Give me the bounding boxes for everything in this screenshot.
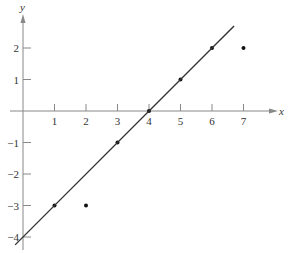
y-tick-label: −3 [7, 200, 19, 212]
fitted-line [15, 26, 234, 245]
y-tick-label: −1 [7, 137, 19, 149]
y-tick-label: 2 [14, 42, 20, 54]
chart-canvas: 123456721−1−2−3−4 x y [0, 0, 291, 253]
y-tick-label: 1 [14, 74, 20, 86]
y-tick-label: −2 [7, 168, 19, 180]
x-tick-label: 5 [178, 115, 184, 127]
y-tick-label: −4 [7, 231, 19, 243]
x-tick-label: 4 [146, 115, 152, 127]
y-axis-arrow-icon [21, 14, 26, 23]
x-tick-label: 6 [209, 115, 215, 127]
x-tick-label: 7 [241, 115, 247, 127]
x-tick-label: 3 [115, 115, 121, 127]
data-point [84, 204, 88, 208]
scatter-chart: 123456721−1−2−3−4 x y [0, 0, 291, 253]
ticks: 123456721−1−2−3−4 [7, 42, 246, 243]
series [15, 26, 245, 245]
x-axis-arrow-icon [269, 109, 278, 114]
x-tick-label: 1 [52, 115, 58, 127]
y-axis-label: y [19, 1, 25, 13]
x-axis-label: x [278, 105, 284, 117]
data-point [242, 46, 246, 50]
x-tick-label: 2 [83, 115, 89, 127]
axes [10, 14, 278, 250]
